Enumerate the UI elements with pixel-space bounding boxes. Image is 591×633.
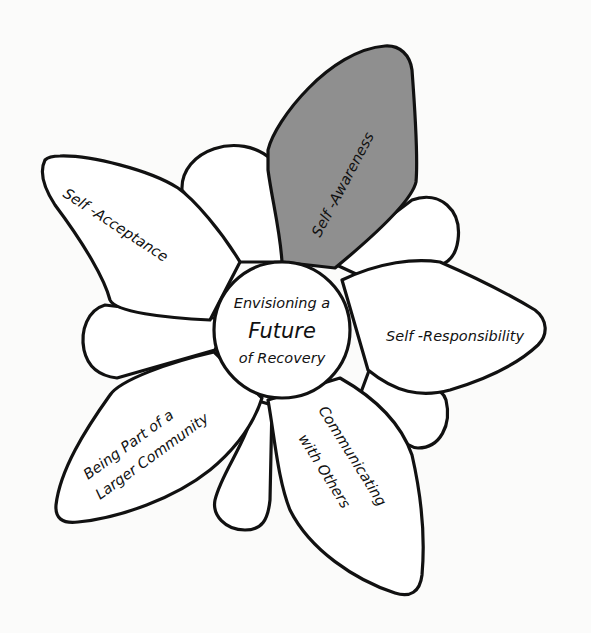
label-self-responsibility: Self -Responsibility bbox=[386, 328, 524, 344]
center-line-2: Future bbox=[248, 319, 316, 343]
recovery-flower-diagram: Envisioning a Future of Recovery Self -A… bbox=[0, 0, 591, 633]
petal-self-responsibility bbox=[342, 261, 545, 394]
center-line-1: Envisioning a bbox=[234, 295, 331, 311]
center-line-3: of Recovery bbox=[239, 350, 326, 366]
